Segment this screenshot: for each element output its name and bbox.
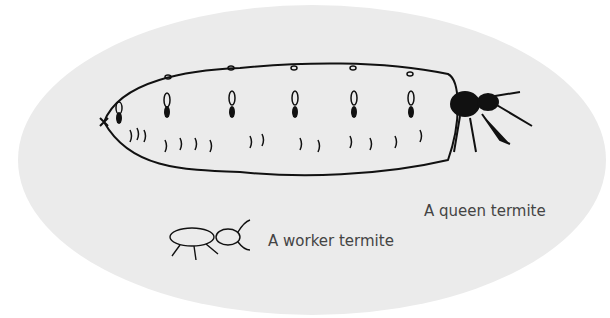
queen-termite: [100, 63, 532, 175]
worker-termite-label: A worker termite: [268, 232, 394, 250]
queen-termite-label: A queen termite: [424, 202, 546, 220]
termite-illustration: [0, 0, 610, 318]
worker-termite: [170, 220, 250, 260]
